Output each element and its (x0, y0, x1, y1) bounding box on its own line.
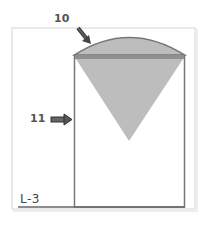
callout-label-wall: 11 (30, 113, 45, 124)
silo-diagram: 10 11 L-3 (0, 0, 208, 226)
dome-base-band (75, 55, 184, 59)
level-label: L-3 (20, 193, 40, 205)
callout-label-dome: 10 (54, 13, 69, 24)
